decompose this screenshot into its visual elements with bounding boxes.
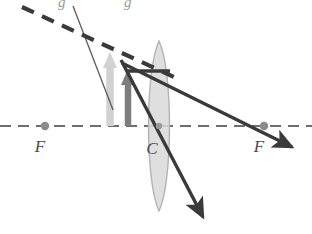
clipped-top-labels: g g <box>58 0 132 10</box>
clipped-label-left: g <box>58 0 66 10</box>
focal-label-right: F <box>253 137 265 156</box>
dashed-construction-ray <box>22 7 174 77</box>
ray-diagram-figure: g g F F <box>0 0 312 234</box>
image-arrow <box>121 69 135 126</box>
refracted-ray-through-focus <box>122 63 292 147</box>
clipped-label-right: g <box>124 0 132 10</box>
focal-point-left-dot <box>41 122 49 130</box>
incident-thin-ray <box>73 6 113 110</box>
lens-center-dot <box>156 123 162 129</box>
ray-diagram-canvas: g g F F <box>0 0 312 234</box>
focal-label-left: F <box>34 137 46 156</box>
focal-point-right-dot <box>260 122 268 130</box>
center-label: C <box>146 139 158 158</box>
